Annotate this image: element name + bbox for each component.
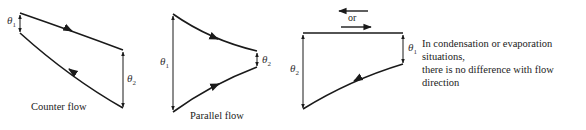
parallel-flow-diagram	[173, 14, 257, 112]
counter-flow-diagram	[20, 13, 123, 108]
direction-or-label: or	[348, 12, 356, 23]
counter-theta1-label: θ1	[7, 14, 16, 29]
parallel-theta2-label: θ2	[262, 53, 271, 68]
theta-subscript: 1	[413, 48, 417, 56]
parallel-flow-caption: Parallel flow	[190, 110, 244, 121]
theta-subscript: 2	[132, 79, 136, 87]
phase-theta2-label: θ2	[290, 62, 299, 77]
hot-stream-line	[173, 14, 257, 51]
note-line-2: there is no difference with flow directi…	[422, 63, 586, 89]
stream-curve-line	[303, 64, 403, 109]
parallel-theta1-label: θ1	[160, 55, 169, 70]
note-line-1: In condensation or evaporation situation…	[422, 37, 586, 63]
cold-stream-line	[173, 67, 257, 112]
theta-subscript: 1	[12, 21, 16, 29]
theta-subscript: 2	[267, 60, 271, 68]
theta-subscript: 1	[165, 62, 169, 70]
counter-flow-caption: Counter flow	[31, 101, 87, 112]
phase-change-note: In condensation or evaporation situation…	[422, 37, 586, 89]
theta-subscript: 2	[295, 69, 299, 77]
counter-theta2-label: θ2	[127, 72, 136, 87]
phase-theta1-label: θ1	[408, 41, 417, 56]
phase-change-diagram	[303, 11, 403, 109]
